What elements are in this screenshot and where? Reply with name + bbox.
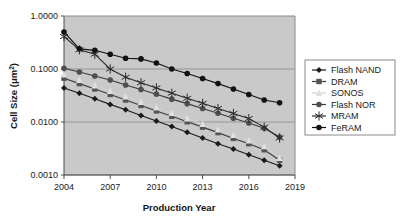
data-point <box>61 66 67 72</box>
y-tick-label: 0.0100 <box>30 117 58 127</box>
legend-label: Flash NAND <box>331 65 382 75</box>
data-point <box>261 97 267 103</box>
data-point <box>77 46 83 52</box>
legend-label: DRAM <box>331 77 358 87</box>
chart-container: 1.00000.10000.01000.0010 200420072010201… <box>0 0 400 224</box>
data-point <box>123 82 129 88</box>
data-point <box>184 71 190 77</box>
legend-marker-icon <box>316 102 322 108</box>
x-axis-title: Production Year <box>143 202 216 213</box>
x-tick-label: 2016 <box>239 182 259 192</box>
data-point <box>246 92 252 98</box>
y-tick-label: 0.0010 <box>30 170 58 180</box>
x-tick-label: 2019 <box>285 182 305 192</box>
data-point <box>138 56 144 62</box>
data-point <box>107 77 113 83</box>
x-tick-label: 2010 <box>146 182 166 192</box>
data-point <box>61 29 67 35</box>
data-point <box>107 51 113 57</box>
data-point <box>200 76 206 82</box>
data-point <box>231 86 237 92</box>
x-tick-label: 2007 <box>100 182 120 192</box>
legend-label: SONOS <box>331 88 364 98</box>
x-tick-label: 2004 <box>54 182 74 192</box>
data-point <box>169 66 175 72</box>
x-tick-label: 2013 <box>193 182 213 192</box>
data-point <box>92 73 98 79</box>
legend-label: FeRAM <box>331 123 362 133</box>
data-point <box>154 60 160 66</box>
legend-marker-icon <box>316 125 322 131</box>
data-point <box>92 48 98 54</box>
y-tick-label: 1.0000 <box>30 11 58 21</box>
legend-item-mram[interactable]: MRAM <box>312 111 359 121</box>
legend-label: MRAM <box>331 111 359 121</box>
y-axis-title: Cell Size (μm2) <box>8 63 19 129</box>
legend: Flash NANDDRAMSONOSFlash NORMRAMFeRAM <box>305 60 395 135</box>
data-point <box>123 55 129 61</box>
y-tick-label: 0.1000 <box>30 64 58 74</box>
data-point <box>138 87 144 93</box>
data-point <box>215 81 221 87</box>
legend-marker-icon <box>316 79 321 84</box>
data-point <box>77 69 83 75</box>
legend-label: Flash NOR <box>331 100 376 110</box>
data-point <box>277 100 283 106</box>
line-chart: 1.00000.10000.01000.0010 200420072010201… <box>0 0 400 224</box>
